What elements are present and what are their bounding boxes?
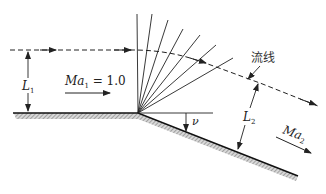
streamline-arrow-4 (300, 99, 316, 105)
downstream-mach: Ma2 (276, 122, 311, 153)
upstream-mach: Ma1 = 1.0 (64, 74, 126, 93)
l2-label: L2 (242, 110, 255, 126)
l2-dimension: L2 (238, 84, 258, 149)
l1-dimension: L1 (21, 52, 34, 111)
fan-line-3 (138, 20, 168, 113)
l1-label: L1 (21, 79, 34, 95)
fan-line-1 (137, 14, 138, 113)
upstream-mach-label: Ma1 = 1.0 (64, 74, 126, 90)
streamline-label: 流线 (251, 51, 275, 65)
expansion-fan (137, 14, 233, 113)
streamline-pointer (248, 66, 260, 79)
streamline-arrow-3 (190, 58, 206, 63)
nu-label: ν (192, 115, 199, 128)
expansion-fan-diagram: L1 Ma1 = 1.0 ν L2 Ma2 流线 (0, 0, 326, 194)
downstream-mach-label: Ma2 (279, 122, 308, 146)
streamline-callout: 流线 (248, 51, 275, 79)
fan-line-6 (138, 45, 216, 113)
